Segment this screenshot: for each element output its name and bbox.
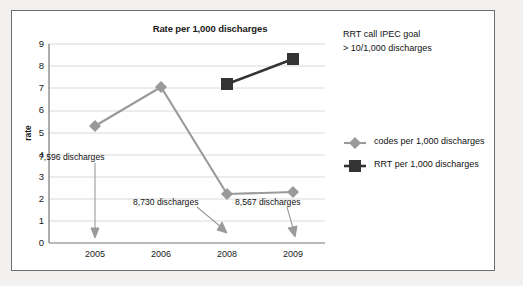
chart-canvas: Rate per 1,000 discharges rate 9 8 7 6 5… (0, 0, 523, 286)
annotation-2008: 8,730 discharges (133, 197, 198, 207)
arrow-head-2009 (288, 226, 297, 237)
data-point-rrt-2009 (287, 53, 299, 65)
goal-annotation-line-2: > 10/1,000 discharges (343, 42, 432, 56)
series-codes-line (95, 87, 293, 194)
goal-annotation-line-1: RRT call IPEC goal (343, 28, 432, 42)
legend-label-rrt: RRT per 1,000 discharges (374, 159, 479, 169)
series-codes-per-1000-discharges (89, 81, 299, 200)
annotation-2009: 8,567 discharges (235, 197, 300, 207)
data-point-rrt-2008 (221, 78, 233, 90)
data-point-codes-2006 (155, 81, 167, 93)
figure-container: Rate per 1,000 discharges rate 9 8 7 6 5… (0, 0, 523, 286)
annotation-2005: 7,596 discharges (39, 152, 104, 162)
series-rrt-per-1000-discharges (221, 53, 299, 90)
arrow-head-2005 (91, 228, 99, 238)
legend-item-codes: codes per 1,000 discharges (342, 136, 485, 146)
data-point-codes-2008 (221, 188, 233, 200)
arrow-line-2008 (197, 207, 221, 227)
arrow-line-2009 (287, 207, 293, 228)
goal-annotation: RRT call IPEC goal > 10/1,000 discharges (343, 28, 432, 55)
series-rrt-line (227, 59, 293, 84)
legend-label-codes: codes per 1,000 discharges (374, 136, 485, 146)
data-point-codes-2005 (89, 120, 101, 132)
legend-item-rrt: RRT per 1,000 discharges (342, 159, 479, 169)
arrow-head-2008 (217, 222, 227, 233)
grid-lines (49, 44, 325, 221)
